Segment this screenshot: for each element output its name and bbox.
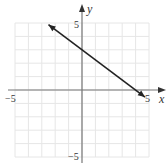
plotted-line [49,25,145,97]
axes [8,4,166,163]
y-min-tick-label: −5 [68,152,79,162]
x-max-tick-label: 5 [145,94,150,104]
y-max-tick-label: 5 [74,20,79,30]
coordinate-plane [0,0,167,168]
x-axis-label: x [159,93,164,105]
x-min-tick-label: −5 [5,94,16,104]
y-axis-label: y [87,3,92,15]
